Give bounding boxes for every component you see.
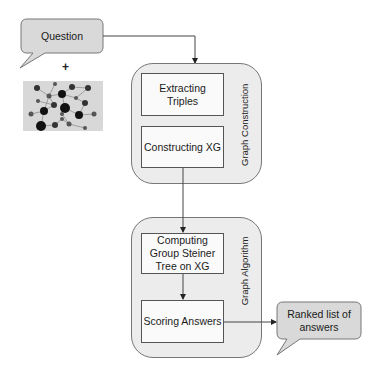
plus-icon: + <box>62 60 69 74</box>
knowledge-graph-image <box>23 81 103 131</box>
step-group-steiner-tree: Computing Group Steiner Tree on XG <box>141 233 224 274</box>
step-constructing-xg: Constructing XG <box>141 126 224 168</box>
answers-label: Ranked list of answers <box>280 302 358 339</box>
arrow-question-to-construction <box>103 36 195 63</box>
question-label: Question <box>21 19 103 53</box>
graph-algorithm-label: Graph Algorithm <box>239 231 251 311</box>
graph-construction-label: Graph Construction <box>239 86 251 166</box>
graph-network-icon <box>23 81 103 131</box>
step-extracting-triples: Extracting Triples <box>141 73 224 116</box>
step-scoring-answers: Scoring Answers <box>141 300 224 343</box>
